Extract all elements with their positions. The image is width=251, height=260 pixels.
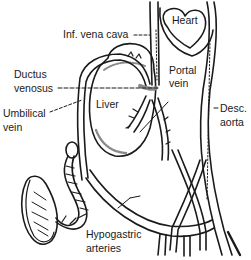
label-ductus-venosus-line2: venosus <box>14 82 53 94</box>
umbilical-cord <box>56 142 88 229</box>
label-desc-aorta-line1: Desc. <box>220 102 247 114</box>
label-hypogastric-arteries-line1: Hypogastric <box>86 228 141 240</box>
label-umbilical-vein-line2: vein <box>3 121 22 133</box>
label-desc-aorta-line2: aorta <box>220 116 244 128</box>
label-ductus-venosus-line1: Ductus <box>14 68 47 80</box>
label-hypogastric-arteries-line2: arteries <box>86 242 121 254</box>
label-heart: Heart <box>172 14 198 26</box>
label-inf-vena-cava: Inf. vena cava <box>63 28 128 40</box>
label-liver: Liver <box>96 98 119 110</box>
label-umbilical-vein-line1: Umbilical <box>3 107 46 119</box>
aorta-vessel <box>201 2 232 255</box>
placenta <box>22 176 58 244</box>
fetal-circulation-diagram: Heart Inf. vena cava Ductus venosus Live… <box>0 0 251 260</box>
label-portal-vein-line1: Portal <box>169 64 196 76</box>
label-portal-vein-line2: vein <box>169 77 188 89</box>
portal-vein-vessel <box>126 96 170 160</box>
